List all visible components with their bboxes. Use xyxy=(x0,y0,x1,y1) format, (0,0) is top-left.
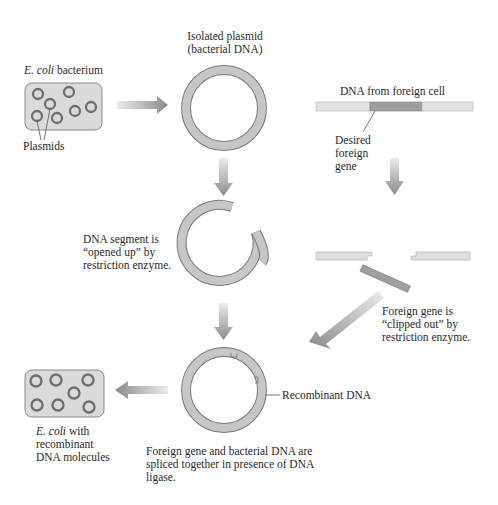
clipped-out-label: Foreign gene is “clipped out” by restric… xyxy=(382,305,470,344)
spliced-together-label: Foreign gene and bacterial DNA are splic… xyxy=(146,445,314,484)
spliced-line1: Foreign gene and bacterial DNA are xyxy=(146,445,314,458)
ecoli-recombinant-label: E. coli with recombinant DNA molecules xyxy=(36,425,110,464)
foreign-dna-strand xyxy=(316,102,473,132)
spliced-line2: spliced together in presence of DNA xyxy=(146,458,314,471)
ecoli-italic-text-bottom: E. coli xyxy=(36,425,66,437)
desired-foreign-gene-label: Desired foreign gene xyxy=(335,134,371,173)
plasmids-label: Plasmids xyxy=(23,140,65,153)
opened-up-label: DNA segment is “opened up” by restrictio… xyxy=(83,233,171,272)
arrow-right-1 xyxy=(117,96,168,114)
ecoli-italic-text: E. coli xyxy=(24,64,54,76)
isolated-plasmid-ring xyxy=(186,70,262,146)
arrow-diagonal xyxy=(309,291,384,349)
desired-line1: Desired xyxy=(335,134,371,147)
recombinant-dna-label: Recombinant DNA xyxy=(282,389,371,402)
ecoli-bacterium-label: E. coli bacterium xyxy=(24,64,103,77)
opened-line3: restriction enzyme. xyxy=(83,259,171,272)
clipped-line2: “clipped out” by xyxy=(382,318,470,331)
clipped-line3: restriction enzyme. xyxy=(382,331,470,344)
desired-line2: foreign xyxy=(335,147,371,160)
dna-molecules-line: DNA molecules xyxy=(36,451,110,464)
ecoli-with-line: E. coli with xyxy=(36,425,110,438)
dna-foreign-cell-label: DNA from foreign cell xyxy=(340,85,445,98)
cut-foreign-dna xyxy=(316,252,470,292)
ecoli-cell-bottom xyxy=(25,370,104,417)
arrow-down-2 xyxy=(385,158,404,195)
opened-line2: “opened up” by xyxy=(83,246,171,259)
arrow-down-1 xyxy=(214,158,233,196)
desired-line3: gene xyxy=(335,160,371,173)
spliced-line3: ligase. xyxy=(146,471,314,484)
arrow-down-3 xyxy=(214,303,233,340)
isolated-plasmid-line2: (bacterial DNA) xyxy=(181,43,269,56)
clipped-line1: Foreign gene is xyxy=(382,305,470,318)
opened-plasmid xyxy=(182,205,264,281)
arrow-left xyxy=(115,381,168,399)
recombinant-line: recombinant xyxy=(36,438,110,451)
bacterium-text: bacterium xyxy=(54,64,103,76)
recombinant-dna-diagram: E. coli bacterium Plasmids Isolated plas… xyxy=(0,0,498,505)
isolated-plasmid-line1: Isolated plasmid xyxy=(181,30,269,43)
recombinant-ring xyxy=(186,352,280,428)
opened-line1: DNA segment is xyxy=(83,233,171,246)
with-text: with xyxy=(66,425,89,437)
isolated-plasmid-label: Isolated plasmid (bacterial DNA) xyxy=(181,30,269,56)
ecoli-cell-top xyxy=(25,83,102,140)
